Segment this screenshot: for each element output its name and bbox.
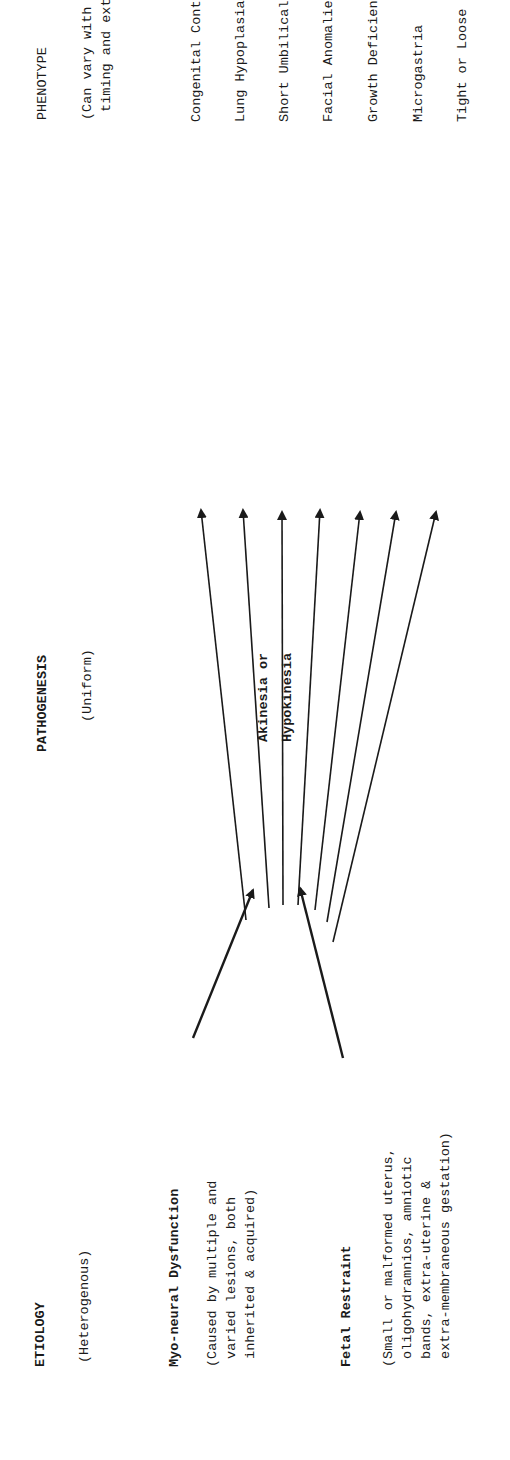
arrow-to-lung-hypoplasia [243, 510, 269, 908]
arrow-to-growth-deficiency [315, 512, 360, 910]
arrow-myo-neural-to-akinesia [193, 890, 253, 1038]
arrow-to-short-umbilical-cord [282, 512, 283, 905]
arrows-layer [0, 0, 510, 1460]
etiology-pathogenesis-phenotype-diagram: ETIOLOGY (Heterogenous) Myo-neural Dysfu… [0, 0, 510, 1460]
arrow-fetal-restraint-to-akinesia [300, 888, 343, 1058]
arrow-to-congenital-contractures [201, 510, 246, 920]
arrow-to-facial-anomalies [298, 510, 320, 905]
